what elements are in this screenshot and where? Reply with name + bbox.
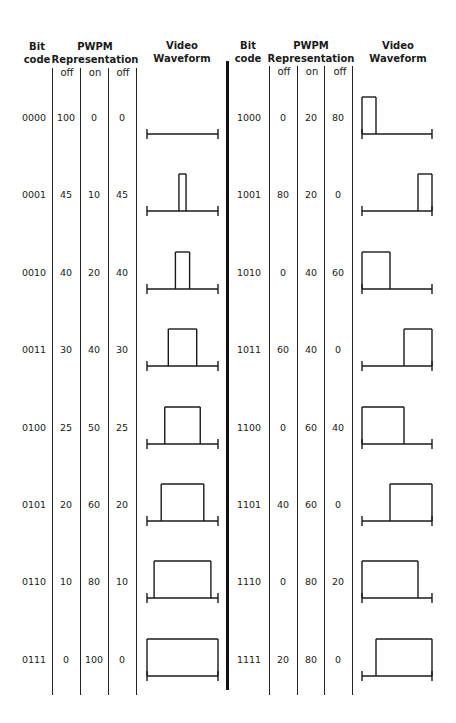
video-waveform xyxy=(360,636,434,684)
on-cell: 40 xyxy=(297,267,325,279)
bit-code-cell: 1011 xyxy=(230,344,268,356)
on-cell: 80 xyxy=(297,654,325,666)
bit-code-cell: 0101 xyxy=(16,499,52,511)
off-before-cell: 30 xyxy=(52,344,80,356)
video-waveform xyxy=(360,326,434,374)
column-divider xyxy=(269,66,270,695)
column-divider xyxy=(80,68,81,695)
video-waveform xyxy=(360,558,434,606)
off-after-cell: 0 xyxy=(324,499,352,511)
bit-code-cell: 0100 xyxy=(16,422,52,434)
off-after-cell: 0 xyxy=(324,344,352,356)
subheader-off-1-left: off xyxy=(53,67,81,79)
off-after-cell: 30 xyxy=(108,344,136,356)
bit-code-cell: 0110 xyxy=(16,576,52,588)
on-cell: 80 xyxy=(80,576,108,588)
column-divider xyxy=(297,66,298,695)
subheader-on-left: on xyxy=(81,67,109,79)
header-video-right: Video Waveform xyxy=(360,39,436,65)
bit-code-cell: 1000 xyxy=(230,112,268,124)
video-waveform xyxy=(360,171,434,219)
video-waveform xyxy=(360,94,434,142)
video-waveform xyxy=(360,481,434,529)
header-waveform-label: Waveform xyxy=(144,52,220,65)
bit-code-cell: 0001 xyxy=(16,189,52,201)
off-after-cell: 0 xyxy=(108,654,136,666)
off-after-cell: 20 xyxy=(108,499,136,511)
off-before-cell: 20 xyxy=(52,499,80,511)
column-divider xyxy=(136,68,137,695)
bit-code-cell: 0000 xyxy=(16,112,52,124)
on-cell: 60 xyxy=(297,422,325,434)
panel-divider xyxy=(226,61,229,690)
header-representation-label: Representation xyxy=(50,53,140,66)
off-after-cell: 80 xyxy=(324,112,352,124)
on-cell: 20 xyxy=(297,189,325,201)
off-before-cell: 0 xyxy=(269,267,297,279)
header-pwpm-label: PWPM xyxy=(266,39,356,52)
on-cell: 60 xyxy=(297,499,325,511)
off-after-cell: 20 xyxy=(324,576,352,588)
video-waveform xyxy=(145,481,220,529)
on-cell: 20 xyxy=(80,267,108,279)
off-after-cell: 40 xyxy=(324,422,352,434)
off-after-cell: 60 xyxy=(324,267,352,279)
off-before-cell: 60 xyxy=(269,344,297,356)
header-pwpm-right: PWPM Representation xyxy=(266,39,356,65)
bit-code-cell: 1111 xyxy=(230,654,268,666)
off-after-cell: 45 xyxy=(108,189,136,201)
on-cell: 0 xyxy=(80,112,108,124)
header-representation-label: Representation xyxy=(266,52,356,65)
header-waveform-label: Waveform xyxy=(360,52,436,65)
header-bit-label: Bit xyxy=(228,39,268,52)
bit-code-cell: 0010 xyxy=(16,267,52,279)
video-waveform xyxy=(145,404,220,452)
off-before-cell: 80 xyxy=(269,189,297,201)
subheader-on-right: on xyxy=(298,66,326,78)
off-before-cell: 100 xyxy=(52,112,80,124)
bit-code-cell: 1110 xyxy=(230,576,268,588)
on-cell: 60 xyxy=(80,499,108,511)
off-before-cell: 45 xyxy=(52,189,80,201)
video-waveform xyxy=(145,558,220,606)
on-cell: 80 xyxy=(297,576,325,588)
off-before-cell: 40 xyxy=(269,499,297,511)
subheader-off-1-right: off xyxy=(270,66,298,78)
header-bit-code-right: Bit code xyxy=(228,39,268,65)
column-divider xyxy=(352,66,353,695)
off-after-cell: 40 xyxy=(108,267,136,279)
off-before-cell: 20 xyxy=(269,654,297,666)
on-cell: 20 xyxy=(297,112,325,124)
column-divider xyxy=(52,68,53,695)
off-before-cell: 10 xyxy=(52,576,80,588)
bit-code-cell: 1010 xyxy=(230,267,268,279)
video-waveform xyxy=(360,249,434,297)
off-after-cell: 25 xyxy=(108,422,136,434)
column-divider xyxy=(324,66,325,695)
off-before-cell: 0 xyxy=(269,422,297,434)
bit-code-cell: 1101 xyxy=(230,499,268,511)
on-cell: 40 xyxy=(80,344,108,356)
bit-code-cell: 0111 xyxy=(16,654,52,666)
header-pwpm-left: PWPM Representation xyxy=(50,40,140,66)
video-waveform xyxy=(145,326,220,374)
off-before-cell: 40 xyxy=(52,267,80,279)
video-waveform xyxy=(145,636,220,684)
video-waveform xyxy=(360,404,434,452)
off-after-cell: 10 xyxy=(108,576,136,588)
off-before-cell: 0 xyxy=(52,654,80,666)
off-after-cell: 0 xyxy=(324,654,352,666)
video-waveform xyxy=(145,171,220,219)
video-waveform xyxy=(145,94,220,142)
bit-code-cell: 0011 xyxy=(16,344,52,356)
off-before-cell: 0 xyxy=(269,112,297,124)
header-video-label: Video xyxy=(360,39,436,52)
on-cell: 100 xyxy=(80,654,108,666)
header-pwpm-label: PWPM xyxy=(50,40,140,53)
off-after-cell: 0 xyxy=(324,189,352,201)
header-video-label: Video xyxy=(144,39,220,52)
bit-code-cell: 1100 xyxy=(230,422,268,434)
header-video-left: Video Waveform xyxy=(144,39,220,65)
subheader-off-2-left: off xyxy=(109,67,137,79)
off-after-cell: 0 xyxy=(108,112,136,124)
